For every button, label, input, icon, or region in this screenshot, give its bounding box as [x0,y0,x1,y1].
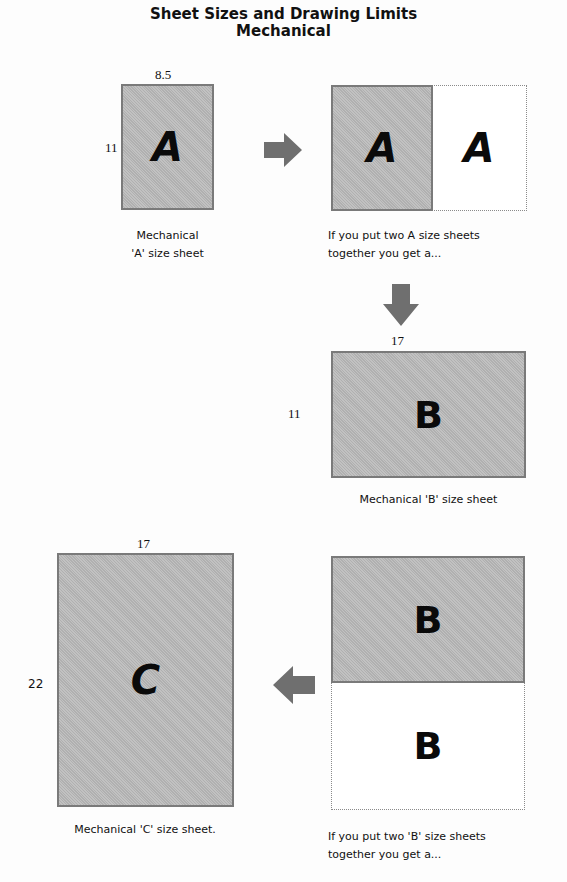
sheet-c-width-label: 17 [137,536,150,552]
arrow-left-icon [273,666,315,704]
combined-b-ghost-sheet: B [331,681,525,810]
sheet-c-caption: Mechanical 'C' size sheet. [40,821,250,839]
sheet-a-letter: A [123,124,212,170]
sheet-a-width-label: 8.5 [155,67,171,83]
combined-a-caption-line-2: together you get a... [328,245,558,263]
combined-a-caption: If you put two A size sheets together yo… [328,227,558,263]
combined-b-letter-2: B [332,724,524,768]
sheet-a-caption-line-1: Mechanical [110,227,225,245]
combined-a-ghost-sheet: A [431,85,527,211]
sheet-b: B [331,351,526,478]
combined-b-caption-line-1: If you put two 'B' size sheets [328,828,563,846]
sheet-a: A [121,84,214,210]
combined-b-caption: If you put two 'B' size sheets together … [328,828,563,864]
combined-a-letter-1: A [333,125,431,171]
combined-b-caption-line-2: together you get a... [328,846,563,864]
sheet-b-letter: B [333,393,524,437]
combined-b-sheet: B [331,556,525,683]
title-line-1: Sheet Sizes and Drawing Limits [0,6,567,23]
sheet-c-height-label: 22 [28,677,43,691]
combined-b-letter-1: B [333,598,523,642]
arrow-right-icon [264,133,302,167]
sheet-c-letter: C [59,657,232,703]
combined-a-sheet: A [331,85,433,211]
page-title: Sheet Sizes and Drawing Limits Mechanica… [0,6,567,40]
combined-a-letter-2: A [432,125,526,171]
sheet-b-height-label: 11 [288,406,301,422]
sheet-a-caption: Mechanical 'A' size sheet [110,227,225,263]
sheet-a-height-label: 11 [105,140,118,156]
title-line-2: Mechanical [0,23,567,40]
sheet-b-caption: Mechanical 'B' size sheet [316,491,541,509]
sheet-c: C [57,553,234,807]
combined-a-caption-line-1: If you put two A size sheets [328,227,558,245]
sheet-b-width-label: 17 [391,333,404,349]
sheet-a-caption-line-2: 'A' size sheet [110,245,225,263]
arrow-down-icon [383,284,419,326]
